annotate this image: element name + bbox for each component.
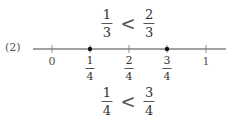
denominator: 4: [125, 71, 134, 82]
denominator: 4: [163, 71, 172, 82]
point-3-4: [165, 47, 169, 51]
fraction-bar: [163, 68, 172, 69]
fraction-bar: [101, 101, 112, 102]
tick-label-3-4: 3 4: [163, 55, 172, 82]
numerator: 3: [144, 86, 154, 99]
fraction-bar: [125, 68, 134, 69]
tick-label-1-4: 1 4: [86, 55, 95, 82]
tick-label-0: 0: [49, 55, 56, 68]
tick-label-1: 1: [203, 55, 210, 68]
bottom-inequality: 1 4 < 3 4: [101, 86, 154, 117]
numerator: 2: [125, 55, 134, 66]
numerator: 1: [102, 86, 112, 99]
denominator: 4: [102, 104, 112, 117]
numerator: 3: [163, 55, 172, 66]
tick-label-2-4: 2 4: [125, 55, 134, 82]
point-1-4: [88, 47, 92, 51]
denominator: 4: [86, 71, 95, 82]
fraction-bar: [86, 68, 95, 69]
fraction-three-fourths: 3 4: [144, 86, 155, 117]
fraction-bar: [144, 101, 155, 102]
fraction-one-fourth: 1 4: [101, 86, 112, 117]
denominator: 4: [144, 104, 154, 117]
numerator: 1: [86, 55, 95, 66]
less-than-sign: <: [120, 91, 135, 112]
